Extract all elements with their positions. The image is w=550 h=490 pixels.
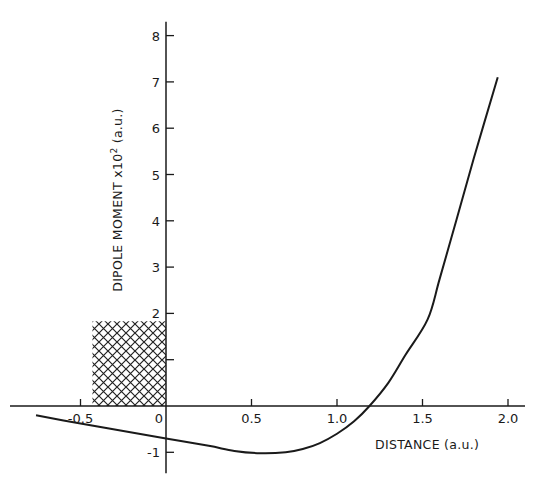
x-axis-label: DISTANCE (a.u.) bbox=[375, 437, 479, 452]
dipole-moment-chart: -0.500.51.01.52.0-12345678 DIPOLE MOMENT… bbox=[0, 0, 550, 490]
plot-area: -0.500.51.01.52.0-12345678 bbox=[0, 0, 550, 490]
y-tick-label: 2 bbox=[152, 306, 160, 321]
hatched-region bbox=[92, 321, 166, 406]
y-tick-label: 3 bbox=[152, 260, 160, 275]
x-tick-label: 1.0 bbox=[327, 411, 348, 426]
y-tick-label: -1 bbox=[147, 445, 160, 460]
x-tick-label: 1.5 bbox=[412, 411, 433, 426]
y-tick-label: 8 bbox=[152, 29, 160, 44]
x-tick-label: 0 bbox=[155, 411, 163, 426]
x-tick-label: 2.0 bbox=[498, 411, 519, 426]
y-tick-label: 6 bbox=[152, 121, 160, 136]
y-tick-label: 7 bbox=[152, 75, 160, 90]
y-tick-label: 5 bbox=[152, 168, 160, 183]
y-tick-label: 4 bbox=[152, 214, 160, 229]
x-tick-label: 0.5 bbox=[241, 411, 262, 426]
y-axis-label: DIPOLE MOMENT x102 (a.u.) bbox=[109, 108, 125, 292]
